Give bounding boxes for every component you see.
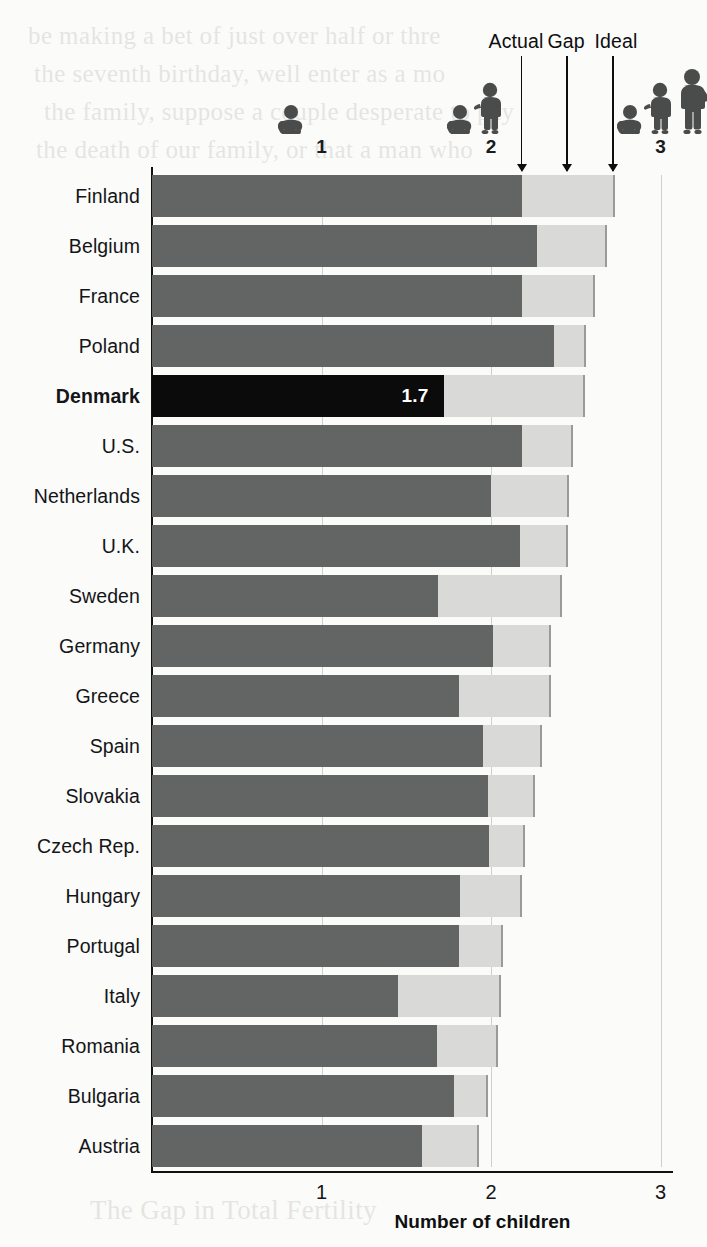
bar-segment-ideal-edge <box>613 175 615 217</box>
bar-segment-ideal-edge <box>499 975 501 1017</box>
bar-segment-gap <box>522 275 593 317</box>
category-label-hungary: Hungary <box>66 885 140 908</box>
category-label-spain: Spain <box>90 735 140 758</box>
category-label-belgium: Belgium <box>69 235 140 258</box>
bar-segment-actual <box>152 1025 437 1067</box>
bar-segment-ideal-edge <box>549 675 551 717</box>
bar-segment-actual <box>152 225 537 267</box>
baby-silhouette-icon <box>447 104 473 134</box>
bar-segment-ideal-edge <box>477 1125 479 1167</box>
category-label-romania: Romania <box>61 1035 140 1058</box>
bar-row[interactable]: 1.7 <box>152 375 586 417</box>
bar-row[interactable] <box>152 1075 489 1117</box>
bar-segment-ideal-edge <box>533 775 535 817</box>
bar-segment-ideal-edge <box>560 575 562 617</box>
bar-segment-gap <box>437 1025 496 1067</box>
bar-segment-ideal-edge <box>486 1075 488 1117</box>
y-axis-line <box>151 167 153 1173</box>
bar-row[interactable] <box>152 775 536 817</box>
bar-segment-ideal-edge <box>605 225 607 267</box>
category-label-france: France <box>79 285 140 308</box>
bar-row[interactable] <box>152 325 587 367</box>
category-label-greece: Greece <box>75 685 140 708</box>
scale-figure-number-1: 1 <box>316 136 327 158</box>
bar-segment-gap <box>491 475 567 517</box>
bar-segment-gap <box>422 1125 478 1167</box>
scale-figure-number-3: 3 <box>655 136 666 158</box>
bar-segment-gap <box>398 975 500 1017</box>
bar-row[interactable] <box>152 675 552 717</box>
bar-row[interactable] <box>152 175 616 217</box>
legend-gap-label: Gap <box>547 30 584 53</box>
bar-row[interactable] <box>152 225 608 267</box>
teen-silhouette-icon <box>675 68 707 134</box>
scale-figure-group-1 <box>278 58 304 134</box>
legend-gap-arrow-icon <box>566 56 568 171</box>
category-label-slovakia: Slovakia <box>65 785 140 808</box>
bar-segment-gap <box>554 325 585 367</box>
bar-segment-actual <box>152 275 522 317</box>
x-tick-label-1: 1 <box>316 1181 327 1204</box>
bar-segment-ideal-edge <box>571 425 573 467</box>
bar-segment-actual <box>152 425 522 467</box>
category-label-u-k: U.K. <box>102 535 140 558</box>
category-label-poland: Poland <box>79 335 140 358</box>
bar-row[interactable] <box>152 925 504 967</box>
child-silhouette-icon <box>474 82 504 134</box>
bar-segment-ideal-edge <box>567 475 569 517</box>
category-label-czech-rep: Czech Rep. <box>37 835 140 858</box>
legend-actual-arrow-icon <box>521 56 523 171</box>
bar-segment-actual <box>152 525 520 567</box>
category-label-denmark: Denmark <box>56 385 140 408</box>
bar-row[interactable] <box>152 475 570 517</box>
scale-figure-group-3 <box>617 58 707 134</box>
bar-segment-ideal-edge <box>523 825 525 867</box>
bar-segment-gap <box>537 225 605 267</box>
bar-segment-gap <box>460 875 519 917</box>
bar-segment-ideal-edge <box>584 325 586 367</box>
bar-segment-actual <box>152 1075 454 1117</box>
bar-row[interactable] <box>152 1125 480 1167</box>
bar-segment-gap <box>454 1075 486 1117</box>
bar-value-label: 1.7 <box>402 385 429 407</box>
bar-segment-actual <box>152 925 459 967</box>
baby-silhouette-icon <box>617 104 643 134</box>
bar-segment-gap <box>520 525 566 567</box>
bar-row[interactable] <box>152 575 563 617</box>
bar-segment-gap <box>489 825 523 867</box>
bar-segment-actual <box>152 825 489 867</box>
bar-segment-gap <box>488 775 534 817</box>
bar-segment-gap <box>438 575 560 617</box>
bar-segment-actual <box>152 1125 422 1167</box>
bar-segment-gap <box>444 375 583 417</box>
bar-row[interactable] <box>152 625 552 667</box>
category-label-bulgaria: Bulgaria <box>68 1085 140 1108</box>
bar-segment-ideal-edge <box>549 625 551 667</box>
scale-figure-number-2: 2 <box>486 136 497 158</box>
bar-segment-actual <box>152 325 554 367</box>
bar-segment-gap <box>493 625 549 667</box>
bar-row[interactable] <box>152 525 569 567</box>
x-tick-label-3: 3 <box>655 1181 666 1204</box>
bar-row[interactable] <box>152 875 523 917</box>
category-label-sweden: Sweden <box>69 585 140 608</box>
bar-segment-ideal-edge <box>496 1025 498 1067</box>
bar-row[interactable] <box>152 425 574 467</box>
bar-row[interactable] <box>152 275 596 317</box>
category-label-italy: Italy <box>104 985 140 1008</box>
x-tick-label-2: 2 <box>485 1181 496 1204</box>
category-label-portugal: Portugal <box>67 935 140 958</box>
x-axis-title: Number of children <box>395 1211 571 1233</box>
bar-segment-actual <box>152 475 491 517</box>
bar-row[interactable] <box>152 1025 499 1067</box>
bar-segment-gap <box>459 925 501 967</box>
bar-segment-gap <box>459 675 549 717</box>
bar-row[interactable] <box>152 725 543 767</box>
bar-row[interactable] <box>152 975 502 1017</box>
bar-segment-ideal-edge <box>501 925 503 967</box>
bar-row[interactable] <box>152 825 526 867</box>
gridline-1 <box>322 175 323 1167</box>
bar-segment-actual <box>152 725 483 767</box>
bar-segment-ideal-edge <box>566 525 568 567</box>
category-label-austria: Austria <box>79 1135 140 1158</box>
